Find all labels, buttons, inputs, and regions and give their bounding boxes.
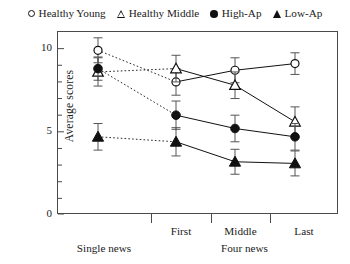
x-group-four-news: Four news <box>151 243 338 254</box>
legend-label: Healthy Young <box>39 8 106 19</box>
chart-legend: Healthy Young Healthy Middle High-Ap Low… <box>0 4 350 24</box>
legend-label: Healthy Middle <box>129 8 200 19</box>
y-tick-10: 10 <box>26 42 52 53</box>
x-tick-separator-last <box>270 214 271 223</box>
legend-label: High-Ap <box>222 8 262 19</box>
chart-figure: Healthy Young Healthy Middle High-Ap Low… <box>0 0 350 264</box>
circle-outline-icon <box>28 10 35 17</box>
plot-area: Average scores <box>57 31 338 214</box>
legend-label: Low-Ap <box>285 8 323 19</box>
x-group-single-news: Single news <box>57 243 151 254</box>
legend-item-healthy-young: Healthy Young <box>28 8 106 19</box>
x-label-middle: Middle <box>211 226 270 237</box>
legend-item-healthy-middle: Healthy Middle <box>117 8 200 19</box>
legend-item-low-ap: Low-Ap <box>273 8 323 19</box>
triangle-filled-icon <box>273 10 281 18</box>
plot-canvas <box>58 32 339 215</box>
circle-filled-icon <box>210 10 218 18</box>
triangle-outline-icon <box>117 10 125 18</box>
y-tick-5: 5 <box>26 125 52 136</box>
x-separator-1 <box>151 32 152 215</box>
x-tick-separator-first <box>151 214 152 223</box>
y-tick-0: 0 <box>26 208 52 219</box>
x-label-last: Last <box>270 226 338 237</box>
x-label-first: First <box>151 226 211 237</box>
x-tick-separator-middle <box>211 214 212 223</box>
legend-item-high-ap: High-Ap <box>210 8 261 19</box>
